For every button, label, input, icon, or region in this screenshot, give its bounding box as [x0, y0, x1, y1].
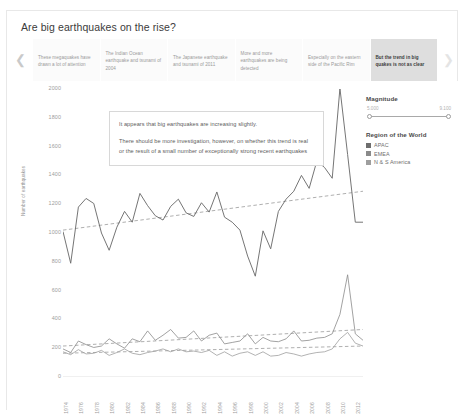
x-tick-1984: 1984: [140, 402, 146, 414]
series-line-emea: [63, 275, 363, 353]
y-tick-2000: 2000: [23, 85, 61, 91]
x-tick-1994: 1994: [217, 402, 223, 414]
story-navigation: ❮ ❯ These megaquakes have drawn a lot of…: [7, 39, 459, 81]
slider-handle-max[interactable]: [446, 114, 451, 119]
y-tick-800: 800: [23, 258, 61, 264]
tab-trend-not-as-clear[interactable]: But the trend in big quakes is not as cl…: [371, 39, 438, 81]
series-line-n-s-america: [63, 332, 363, 356]
region-legend-title: Region of the World: [366, 131, 452, 138]
legend-item-americas[interactable]: N & S America: [366, 159, 452, 165]
magnitude-min-value: 5.000: [367, 106, 379, 111]
tab-japanese-2011[interactable]: The Japanese earthquake and tsunami of 2…: [168, 39, 235, 81]
story-canvas: Are big earthquakes on the rise? ❮ ❯ The…: [0, 0, 464, 419]
legend-item-apac[interactable]: APAC: [366, 142, 452, 148]
x-tick-2010: 2010: [340, 402, 346, 414]
x-tick-1986: 1986: [155, 402, 161, 414]
x-tick-2006: 2006: [309, 402, 315, 414]
legend-label-americas: N & S America: [374, 159, 410, 165]
legend-item-emea[interactable]: EMEA: [366, 151, 452, 157]
page-title: Are big earthquakes on the rise?: [21, 21, 176, 33]
x-tick-1988: 1988: [170, 402, 176, 414]
x-tick-1996: 1996: [232, 402, 238, 414]
x-tick-1992: 1992: [201, 402, 207, 414]
annotation-paragraph-1: It appears that big earthquakes are incr…: [119, 120, 314, 130]
x-tick-2000: 2000: [263, 402, 269, 414]
x-tick-1982: 1982: [124, 402, 130, 414]
legend-label-apac: APAC: [374, 142, 389, 148]
x-tick-1976: 1976: [78, 402, 84, 414]
tab-more-detected[interactable]: More and more earthquakes are being dete…: [236, 39, 303, 81]
legend-label-emea: EMEA: [374, 151, 390, 157]
x-tick-1990: 1990: [186, 402, 192, 414]
y-tick-1400: 1400: [23, 171, 61, 177]
magnitude-range-slider[interactable]: 5.000 9.100: [366, 106, 452, 122]
y-tick-1200: 1200: [23, 200, 61, 206]
y-tick-1600: 1600: [23, 143, 61, 149]
magnitude-range-values: 5.000 9.100: [366, 106, 452, 113]
tab-megaquakes-attention[interactable]: These megaquakes have drawn a lot of att…: [33, 39, 100, 81]
magnitude-filter-title: Magnitude: [366, 95, 452, 102]
y-tick-1800: 1800: [23, 114, 61, 120]
x-axis-ticks: 1974197619781980198219841986198819901992…: [7, 373, 367, 410]
visualization-area: Magnitude 5.000 9.100 Region of the Worl…: [7, 81, 459, 410]
tab-eastern-pacific-rim[interactable]: Especially on the eastern side of the Pa…: [303, 39, 370, 81]
chevron-left-icon[interactable]: ❮: [14, 52, 26, 68]
y-tick-600: 600: [23, 287, 61, 293]
x-tick-1980: 1980: [109, 402, 115, 414]
total-trend: [63, 191, 363, 230]
x-tick-2012: 2012: [355, 402, 361, 414]
magnitude-max-value: 9.100: [440, 106, 452, 111]
chevron-right-icon[interactable]: ❯: [442, 52, 454, 68]
x-tick-2004: 2004: [294, 402, 300, 414]
y-tick-200: 200: [23, 344, 61, 350]
slider-handle-min[interactable]: [367, 114, 372, 119]
x-tick-2008: 2008: [324, 402, 330, 414]
y-tick-1000: 1000: [23, 229, 61, 235]
y-tick-400: 400: [23, 315, 61, 321]
x-tick-2002: 2002: [278, 402, 284, 414]
y-axis-ticks: 2000180016001400120010008006004002000: [23, 81, 61, 410]
x-tick-1998: 1998: [247, 402, 253, 414]
region-legend-items: APAC EMEA N & S America: [366, 142, 452, 165]
story-frame: Are big earthquakes on the rise? ❮ ❯ The…: [6, 10, 458, 410]
slider-bar: [370, 116, 448, 117]
x-tick-1978: 1978: [94, 402, 100, 414]
slider-track[interactable]: [366, 113, 452, 120]
annotation-callout: It appears that big earthquakes are incr…: [109, 111, 324, 166]
tab-indian-ocean-2004[interactable]: The Indian Ocean earthquake and tsunami …: [101, 39, 168, 81]
legend-panel: Magnitude 5.000 9.100 Region of the Worl…: [366, 95, 452, 168]
story-tabs: These megaquakes have drawn a lot of att…: [33, 39, 437, 81]
annotation-paragraph-2: There should be more investigation, howe…: [119, 137, 314, 157]
x-tick-1974: 1974: [63, 402, 69, 414]
